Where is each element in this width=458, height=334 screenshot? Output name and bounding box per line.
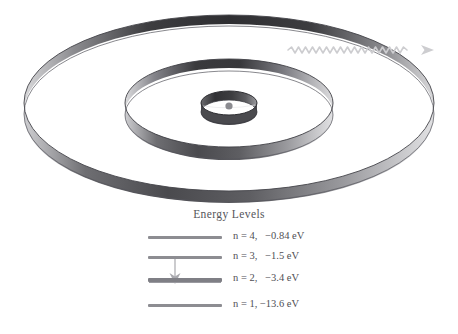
level-n1-row: n = 1, −13.6 eV [0,304,458,322]
orbit-svg [0,0,458,205]
bohr-model-figure: Energy Levels n = 4, −0.84 eV n = 3, −1.… [0,0,458,334]
atom-orbit-diagram [0,0,458,205]
level-n2-row: n = 2, −3.4 eV [0,278,458,296]
emitted-photon-arrow [288,45,434,55]
level-n3-bar [148,256,222,259]
level-n1-bar [148,304,222,307]
level-n3-label: n = 3, −1.5 eV [233,250,299,261]
level-n4-row: n = 4, −0.84 eV [0,236,458,254]
level-n2-bar [148,278,222,282]
level-n4-label: n = 4, −0.84 eV [233,230,304,241]
energy-levels-panel: Energy Levels n = 4, −0.84 eV n = 3, −1.… [0,206,458,334]
level-n1-label: n = 1, −13.6 eV [233,298,299,309]
energy-levels-title: Energy Levels [0,208,458,220]
level-n3-row: n = 3, −1.5 eV [0,256,458,274]
nucleus [225,102,232,109]
level-n4-bar [148,236,222,239]
level-n2-label: n = 2, −3.4 eV [233,272,299,283]
